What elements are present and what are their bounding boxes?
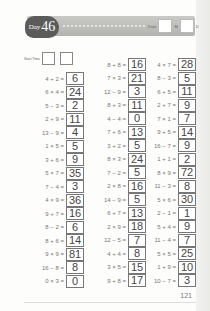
- answer-box[interactable]: 36: [66, 194, 84, 207]
- problem-equation: 16 − 7 =: [154, 143, 176, 149]
- answer-box[interactable]: 6: [66, 221, 84, 234]
- problem-equation: 4 − 4 =: [107, 116, 126, 122]
- problem-row: 14 − 9 =5: [104, 193, 146, 207]
- problem-equation: 3 + 6 =: [45, 157, 64, 163]
- problem-row: 3 + 2 =5: [107, 139, 146, 153]
- problem-equation: 8 − 2 =: [45, 224, 64, 230]
- problem-equation: 4 × 9 =: [45, 197, 64, 203]
- answer-box[interactable]: 24: [66, 86, 84, 99]
- problem-equation: 11 − 3 =: [154, 183, 176, 189]
- problem-row: 8 + 3 =11: [107, 99, 146, 113]
- problem-equation: 3 × 5 =: [107, 264, 126, 270]
- answer-box[interactable]: 7: [128, 234, 146, 247]
- answer-box[interactable]: 81: [66, 248, 84, 261]
- start-minute-box[interactable]: [60, 52, 73, 65]
- problem-row: 3 + 6 =9: [45, 153, 84, 167]
- problem-row: 5 + 4 =9: [157, 220, 196, 234]
- problem-equation: 6 + 7 =: [107, 210, 126, 216]
- problem-row: 6 × 4 =24: [45, 86, 84, 100]
- problem-equation: 5 × 6 =: [157, 197, 176, 203]
- answer-box[interactable]: 10: [178, 261, 196, 274]
- answer-box[interactable]: 8: [66, 261, 84, 274]
- problem-row: 8 + 8 =16: [107, 58, 146, 72]
- answer-box[interactable]: 9: [178, 99, 196, 112]
- answer-box[interactable]: 8: [128, 247, 146, 260]
- problem-row: 0 × 3 =0: [45, 275, 84, 289]
- answer-box[interactable]: 5: [128, 193, 146, 206]
- problem-row: 11 − 3 =8: [154, 180, 196, 194]
- problem-equation: 0 × 3 =: [45, 278, 64, 284]
- answer-box[interactable]: 7: [178, 234, 196, 247]
- answer-box[interactable]: 14: [178, 126, 196, 139]
- answer-box[interactable]: 11: [66, 113, 84, 126]
- problem-row: 6 + 5 =11: [157, 85, 196, 99]
- answer-box[interactable]: 6: [66, 72, 84, 85]
- answer-box[interactable]: 16: [128, 58, 146, 71]
- answer-box[interactable]: 4: [66, 126, 84, 139]
- problem-row: 9 + 5 =14: [157, 126, 196, 140]
- answer-box[interactable]: 11: [128, 99, 146, 112]
- problem-row: 2 × 8 =16: [107, 180, 146, 194]
- problem-row: 4 × 9 =36: [45, 194, 84, 208]
- answer-box[interactable]: 24: [128, 153, 146, 166]
- month-box[interactable]: [158, 19, 172, 33]
- problem-row: 2 + 9 =11: [45, 113, 84, 127]
- problem-row: 7 × 1 =7: [157, 112, 196, 126]
- answer-box[interactable]: 7: [178, 112, 196, 125]
- problem-row: 12 − 9 =3: [104, 85, 146, 99]
- answer-box[interactable]: 9: [178, 139, 196, 152]
- problem-equation: 7 − 4 =: [45, 184, 64, 190]
- answer-box[interactable]: 30: [178, 193, 196, 206]
- answer-box[interactable]: 5: [66, 140, 84, 153]
- problem-row: 8 × 9 =72: [157, 166, 196, 180]
- day-box[interactable]: [180, 19, 194, 33]
- problem-row: 5 × 5 =25: [157, 247, 196, 261]
- answer-box[interactable]: 2: [178, 153, 196, 166]
- answer-box[interactable]: 14: [66, 234, 84, 247]
- answer-box[interactable]: 17: [128, 274, 146, 287]
- problem-equation: 8 + 6 =: [45, 238, 64, 244]
- answer-box[interactable]: 3: [178, 274, 196, 287]
- answer-box[interactable]: 8: [178, 180, 196, 193]
- problem-equation: 14 − 9 =: [104, 197, 126, 203]
- answer-box[interactable]: 3: [128, 85, 146, 98]
- problem-row: 5 × 7 =35: [45, 167, 84, 181]
- problem-equation: 10 − 7 =: [154, 278, 176, 284]
- answer-box[interactable]: 0: [128, 112, 146, 125]
- problem-equation: 9 + 8 =: [107, 278, 126, 284]
- answer-box[interactable]: 5: [178, 72, 196, 85]
- problem-equation: 9 × 9 =: [45, 251, 64, 257]
- problem-equation: 16 − 8 =: [42, 265, 64, 271]
- footer-rule: [24, 302, 196, 303]
- answer-box[interactable]: 9: [178, 220, 196, 233]
- problem-row: 11 − 4 =7: [154, 234, 196, 248]
- problem-equation: 1 × 5 =: [45, 143, 64, 149]
- answer-box[interactable]: 72: [178, 166, 196, 179]
- problem-row: 1 + 9 =10: [157, 261, 196, 275]
- answer-box[interactable]: 11: [178, 85, 196, 98]
- answer-box[interactable]: 18: [128, 220, 146, 233]
- problem-equation: 4 × 7 =: [157, 62, 176, 68]
- answer-box[interactable]: 2: [66, 99, 84, 112]
- problem-equation: 5 + 4 =: [157, 224, 176, 230]
- answer-box[interactable]: 5: [128, 166, 146, 179]
- problem-row: 7 − 2 =5: [107, 166, 146, 180]
- problem-row: 10 − 7 =3: [154, 274, 196, 288]
- answer-box[interactable]: 9: [66, 153, 84, 166]
- answer-box[interactable]: 25: [178, 247, 196, 260]
- answer-box[interactable]: 1: [178, 207, 196, 220]
- answer-box[interactable]: 15: [128, 261, 146, 274]
- answer-box[interactable]: 0: [66, 275, 84, 288]
- start-hour-box[interactable]: [42, 52, 55, 65]
- answer-box[interactable]: 28: [178, 58, 196, 71]
- answer-box[interactable]: 16: [66, 207, 84, 220]
- answer-box[interactable]: 35: [66, 167, 84, 180]
- answer-box[interactable]: 3: [66, 180, 84, 193]
- answer-box[interactable]: 13: [128, 126, 146, 139]
- answer-box[interactable]: 21: [128, 72, 146, 85]
- answer-box[interactable]: 5: [128, 139, 146, 152]
- answer-box[interactable]: 16: [128, 180, 146, 193]
- problem-equation: 2 × 8 =: [107, 183, 126, 189]
- problem-column-1: 4 + 2 =66 × 4 =245 − 3 =22 + 9 =1113 − 9…: [24, 72, 84, 288]
- answer-box[interactable]: 13: [128, 207, 146, 220]
